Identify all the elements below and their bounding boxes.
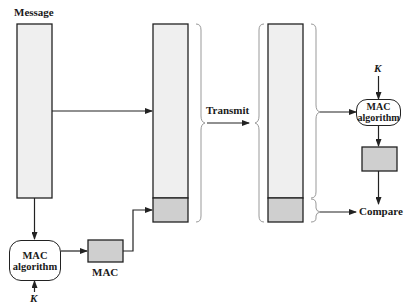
sender-mac-algorithm-line2: algorithm (10, 261, 60, 272)
receiver-computed-mac-block (362, 147, 397, 171)
sender-message-with-mac (153, 24, 188, 222)
receiver-mac-algorithm-node: MAC algorithm (356, 99, 401, 126)
mac-block (88, 240, 123, 262)
diagram-canvas (0, 0, 412, 307)
receiver-key-label: K (374, 62, 381, 74)
receiver-brace-left (255, 24, 264, 222)
mac-to-sender-arrow (123, 210, 152, 251)
transmit-label: Transmit (206, 104, 249, 116)
receiver-brace-message (311, 24, 320, 198)
sender-key-label: K (30, 292, 37, 304)
sender-mac-algorithm-line1: MAC (10, 250, 60, 261)
receiver-mac-algorithm-line2: algorithm (357, 113, 400, 124)
message-block (17, 24, 52, 198)
sender-mac-algorithm-node: MAC algorithm (9, 240, 61, 281)
receiver-brace-mac (311, 199, 320, 222)
receiver-mac-algorithm-line1: MAC (357, 102, 400, 113)
sender-brace (196, 24, 205, 222)
mac-label: MAC (92, 266, 118, 278)
compare-label: Compare (359, 205, 403, 217)
receiver-message-with-mac (268, 24, 303, 222)
message-label: Message (14, 6, 54, 18)
